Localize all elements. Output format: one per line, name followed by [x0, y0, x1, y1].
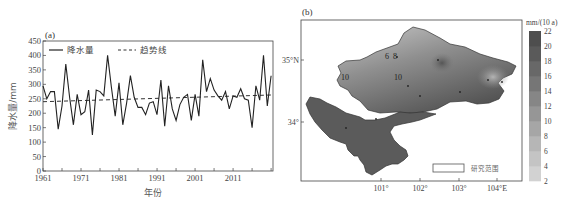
panel-label-b: (b) [302, 7, 313, 17]
colorbar-tick-label: 22 [544, 27, 552, 36]
colorbar-tick-label: 16 [544, 72, 552, 81]
precipitation-line-chart: (a) 050100150200250300350400450 19611971… [0, 0, 285, 205]
colorbar-tick-label: 2 [544, 177, 548, 186]
y-tick-label: 450 [28, 36, 41, 46]
chart-legend: 降水量 趋势线 [49, 45, 167, 55]
y-tick-label: 200 [28, 108, 41, 118]
colorbar-segment [529, 136, 541, 151]
contour-label: 6 [385, 52, 389, 61]
contour-low-east [477, 65, 509, 89]
legend-series-label: 降水量 [67, 45, 94, 55]
latitude-tick-label: 35°N [282, 56, 299, 65]
colorbar-segment [529, 121, 541, 136]
colorbar-tick-label: 18 [544, 57, 552, 66]
x-tick-label: 1971 [73, 173, 90, 183]
y-tick-label: 50 [33, 152, 42, 162]
colorbar-tick-label: 20 [544, 42, 552, 51]
colorbar-segment [529, 151, 541, 166]
colorbar-tick-label: 8 [544, 132, 548, 141]
colorbar-segment [529, 91, 541, 106]
legend-trend-label: 趋势线 [140, 45, 167, 55]
colorbar-segment [529, 46, 541, 61]
y-tick-label: 250 [28, 94, 41, 104]
x-tick-label: 2001 [187, 173, 204, 183]
study-area-legend-swatch [433, 164, 464, 172]
precipitation-trend-map: (b) 6 8 10 10 101°102°103°104°E 35°N34° … [280, 0, 566, 205]
longitude-tick-label: 101° [373, 184, 388, 193]
x-tick-label: 1981 [111, 173, 128, 183]
colorbar-unit: mm/(10 a) [526, 18, 558, 27]
y-axis-label: 降水量/mm [7, 82, 18, 130]
colorbar-segment [529, 61, 541, 76]
y-tick-label: 400 [28, 50, 41, 60]
colorbar: 222018161412108642 [529, 27, 552, 186]
colorbar-segment [529, 76, 541, 91]
x-tick-label: 1991 [149, 173, 166, 183]
study-area-legend-label: 研究范围 [471, 164, 499, 173]
colorbar-segment [529, 166, 541, 181]
colorbar-tick-label: 4 [544, 162, 548, 171]
panel-label-a: (a) [45, 30, 55, 40]
colorbar-segment [529, 106, 541, 121]
y-tick-label: 300 [28, 79, 41, 89]
y-tick-label: 100 [28, 137, 41, 147]
x-axis-label: 年份 [144, 187, 162, 198]
colorbar-tick-label: 14 [544, 87, 552, 96]
colorbar-tick-label: 6 [544, 147, 548, 156]
longitude-tick-label: 104°E [487, 184, 507, 193]
colorbar-tick-label: 12 [544, 102, 552, 111]
longitude-tick-label: 102° [412, 184, 427, 193]
colorbar-tick-label: 10 [544, 117, 552, 126]
contour-label: 10 [394, 73, 402, 82]
x-tick-label: 1961 [35, 173, 52, 183]
y-tick-label: 350 [28, 65, 41, 75]
contour-high-center [430, 53, 454, 73]
contour-label: 10 [341, 73, 349, 82]
colorbar-segment [529, 31, 541, 46]
precipitation-series-line [43, 55, 271, 134]
y-tick-label: 150 [28, 123, 41, 133]
latitude-tick-label: 34° [288, 118, 299, 127]
x-axis-ticks: 196119711981199120012011 [35, 168, 272, 183]
x-tick-label: 2011 [225, 173, 242, 183]
longitude-tick-label: 103° [451, 184, 466, 193]
